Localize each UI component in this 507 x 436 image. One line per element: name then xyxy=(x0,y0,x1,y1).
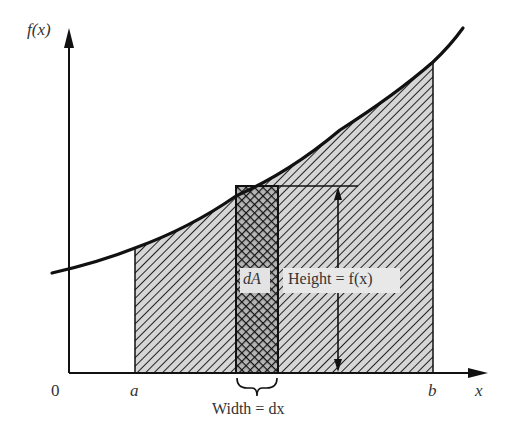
upper-bound-label: b xyxy=(428,381,437,401)
hatched-area-region xyxy=(135,62,433,373)
width-label: Width = dx xyxy=(212,400,284,418)
x-axis-arrow-icon xyxy=(468,368,488,378)
height-label: Height = f(x) xyxy=(288,270,373,288)
strip-label: dA xyxy=(243,270,261,288)
y-axis-arrow-icon xyxy=(64,28,74,48)
area-under-curve-diagram xyxy=(0,0,507,436)
width-brace-icon xyxy=(237,378,277,396)
lower-bound-label: a xyxy=(130,381,139,401)
y-axis-label: f(x) xyxy=(27,20,51,40)
origin-label: 0 xyxy=(51,381,60,401)
x-axis-label: x xyxy=(475,381,483,401)
y-axis xyxy=(64,28,74,373)
